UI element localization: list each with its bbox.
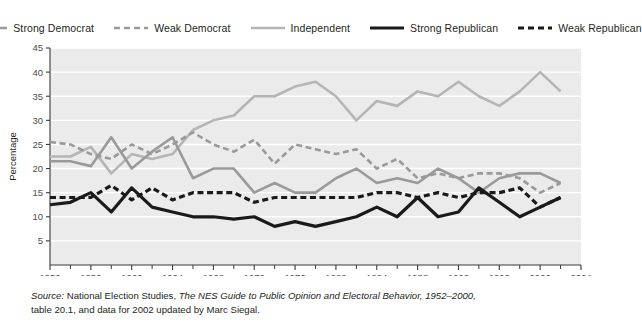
- y-axis: 51015202530354045: [32, 44, 50, 246]
- x-axis-tick-label: 1952: [39, 272, 60, 276]
- x-axis-tick-label: 1968: [203, 272, 224, 276]
- source-agency: National Election Studies,: [64, 290, 179, 301]
- x-axis-tick-label: 1976: [285, 272, 306, 276]
- line-dashed-icon: [114, 23, 148, 33]
- x-axis-tick-label: 1956: [80, 272, 101, 276]
- y-axis-tick-label: 10: [32, 211, 43, 222]
- legend-item-strong-democrat[interactable]: Strong Democrat: [0, 22, 94, 34]
- legend-item-label: Strong Democrat: [13, 22, 94, 34]
- legend-item-strong-republican[interactable]: Strong Republican: [370, 22, 498, 34]
- legend-item-independent[interactable]: Independent: [251, 22, 351, 34]
- legend-item-label: Weak Republican: [558, 22, 642, 34]
- y-axis-title: Percentage: [7, 132, 18, 181]
- x-axis-tick-label: 2004: [570, 272, 591, 276]
- source-label: Source:: [31, 290, 64, 301]
- y-axis-tick-label: 15: [32, 187, 43, 198]
- line-dashed-icon: [518, 23, 552, 33]
- chart-legend: Strong DemocratWeak DemocratIndependentS…: [0, 18, 615, 38]
- x-axis-tick-label: 1980: [325, 272, 346, 276]
- x-axis-tick-label: 1992: [448, 272, 469, 276]
- source-title: The NES Guide to Public Opinion and Elec…: [179, 290, 476, 301]
- x-axis-tick-label: 1988: [407, 272, 428, 276]
- x-axis-tick-label: 1984: [366, 272, 387, 276]
- legend-item-label: Weak Democrat: [154, 22, 230, 34]
- y-axis-tick-label: 20: [32, 163, 43, 174]
- plot-area-wrapper: 51015202530354045Percentage1952195619601…: [0, 44, 615, 276]
- legend-item-label: Strong Republican: [410, 22, 498, 34]
- legend-item-weak-democrat[interactable]: Weak Democrat: [114, 22, 230, 34]
- x-axis: 1952195619601964196819721976198019841988…: [39, 265, 591, 276]
- legend-item-weak-republican[interactable]: Weak Republican: [518, 22, 642, 34]
- y-axis-tick-label: 25: [32, 139, 43, 150]
- source-note: Source: National Election Studies, The N…: [31, 289, 591, 317]
- line-solid-icon: [251, 23, 285, 33]
- x-axis-tick-label: 1960: [121, 272, 142, 276]
- x-axis-tick-label: 1972: [244, 272, 265, 276]
- x-axis-tick-label: 2000: [530, 272, 551, 276]
- x-axis-tick-label: 1964: [162, 272, 183, 276]
- y-axis-tick-label: 35: [32, 91, 43, 102]
- x-axis-tick-label: 1996: [489, 272, 510, 276]
- y-axis-tick-label: 40: [32, 67, 43, 78]
- y-axis-tick-label: 45: [32, 44, 43, 53]
- line-solid-icon: [0, 23, 7, 33]
- line-solid-icon: [370, 23, 404, 33]
- y-axis-tick-label: 30: [32, 115, 43, 126]
- line-chart-svg: 51015202530354045Percentage1952195619601…: [0, 44, 615, 276]
- legend-item-label: Independent: [291, 22, 351, 34]
- y-axis-tick-label: 5: [38, 235, 43, 246]
- source-note-line-1: Source: National Election Studies, The N…: [31, 289, 591, 303]
- source-note-line-2: table 20.1, and data for 2002 updated by…: [31, 303, 591, 317]
